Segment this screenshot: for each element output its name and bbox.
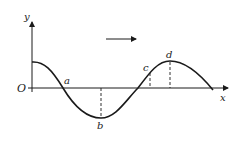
wave-curve: [32, 61, 213, 118]
wave-diagram: y x O a b c d: [0, 0, 236, 143]
point-label-a: a: [64, 75, 70, 86]
y-axis-label: y: [23, 11, 30, 22]
point-label-c: c: [143, 62, 149, 73]
origin-label: O: [17, 82, 26, 95]
point-label-b: b: [97, 120, 103, 131]
point-label-d: d: [166, 49, 172, 60]
x-axis-label: x: [220, 92, 226, 103]
